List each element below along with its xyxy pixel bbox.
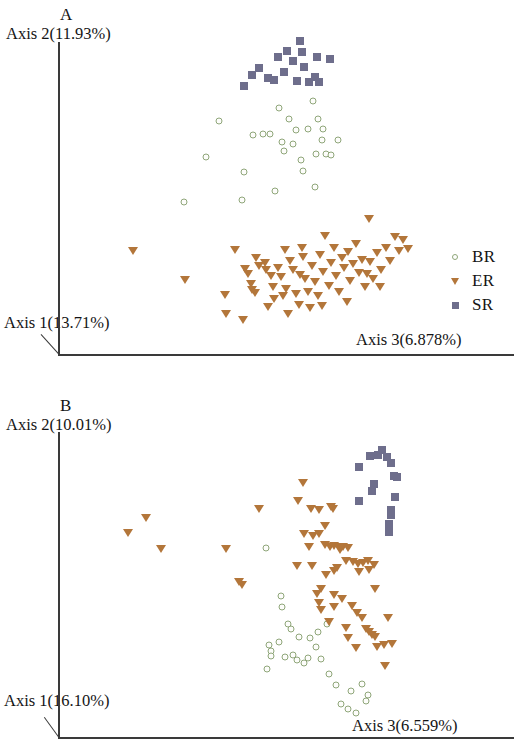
data-point-er — [381, 244, 391, 252]
data-point-er — [398, 236, 408, 244]
data-point-er — [403, 245, 413, 253]
data-point-sr — [315, 78, 323, 86]
data-point-br — [344, 705, 351, 712]
data-point-sr — [366, 452, 374, 460]
data-point-er — [345, 277, 355, 285]
data-point-br — [203, 154, 210, 161]
data-point-sr — [387, 459, 395, 467]
data-point-er — [305, 304, 315, 312]
data-point-er — [357, 614, 367, 622]
data-point-br — [306, 635, 313, 642]
data-point-er — [326, 259, 336, 267]
data-point-br — [363, 698, 370, 705]
panel-a-plot-area — [70, 30, 440, 350]
data-point-sr — [255, 64, 263, 72]
data-point-br — [278, 593, 285, 600]
panel-b-z-axis-line — [44, 717, 59, 737]
data-point-br — [290, 140, 297, 147]
data-point-er — [360, 283, 370, 291]
data-point-er — [343, 248, 353, 256]
er-marker-icon — [446, 278, 464, 285]
data-point-br — [263, 665, 270, 672]
data-point-br — [241, 169, 248, 176]
legend-label-br: BR — [472, 247, 495, 267]
data-point-er — [297, 244, 307, 252]
data-point-er — [351, 240, 361, 248]
data-point-er — [329, 244, 339, 252]
data-point-sr — [355, 463, 363, 471]
data-point-sr — [385, 528, 393, 536]
data-point-br — [271, 187, 278, 194]
data-point-sr — [240, 82, 248, 90]
data-point-er — [315, 251, 325, 259]
data-point-er — [331, 272, 341, 280]
data-point-er — [263, 303, 273, 311]
data-point-er — [298, 253, 308, 261]
data-point-er — [376, 266, 386, 274]
data-point-er — [221, 545, 231, 553]
panel-b-y-axis-line — [58, 432, 60, 738]
data-point-er — [351, 644, 361, 652]
data-point-er — [128, 247, 138, 255]
panel-b-plot-area — [66, 418, 446, 736]
data-point-er — [313, 292, 323, 300]
data-point-br — [276, 105, 283, 112]
data-point-br — [279, 138, 286, 145]
data-point-er — [280, 246, 290, 254]
data-point-sr — [298, 48, 306, 56]
data-point-er — [312, 590, 322, 598]
data-point-er — [324, 282, 334, 290]
data-point-er — [316, 606, 326, 614]
data-point-er — [266, 272, 276, 280]
data-point-br — [318, 655, 325, 662]
panel-a-y-axis-line — [58, 42, 60, 355]
data-point-er — [310, 278, 320, 286]
data-point-br — [352, 710, 359, 717]
data-point-br — [314, 629, 321, 636]
panel-a-letter: A — [60, 5, 72, 25]
data-point-br — [284, 621, 291, 628]
legend-row-sr: SR — [446, 293, 495, 317]
data-point-er — [250, 289, 260, 297]
data-point-br — [300, 167, 307, 174]
data-point-er — [368, 275, 378, 283]
data-point-br — [250, 132, 257, 139]
panel-a-x-axis-line — [58, 354, 514, 356]
data-point-er — [278, 292, 288, 300]
data-point-br — [314, 115, 321, 122]
data-point-er — [304, 543, 314, 551]
data-point-er — [354, 568, 364, 576]
data-point-er — [341, 624, 351, 632]
data-point-br — [312, 184, 319, 191]
data-point-er — [268, 283, 278, 291]
data-point-er — [285, 257, 295, 265]
data-point-er — [372, 643, 382, 651]
data-point-br — [267, 653, 274, 660]
data-point-er — [375, 283, 385, 291]
data-point-sr — [270, 76, 278, 84]
data-point-er — [141, 514, 151, 522]
data-point-er — [343, 634, 353, 642]
data-point-sr — [391, 493, 399, 501]
data-point-er — [276, 273, 286, 281]
data-point-er — [320, 232, 330, 240]
data-point-br — [297, 156, 304, 163]
data-point-er — [291, 290, 301, 298]
data-point-sr — [293, 77, 301, 85]
data-point-br — [296, 634, 303, 641]
data-point-sr — [274, 53, 282, 61]
data-point-sr — [393, 473, 401, 481]
data-point-br — [320, 126, 327, 133]
data-point-br — [304, 125, 311, 132]
data-point-er — [342, 298, 352, 306]
data-point-er — [335, 546, 345, 554]
br-marker-icon — [446, 254, 464, 260]
data-point-er — [326, 503, 336, 511]
data-point-br — [332, 682, 339, 689]
data-point-sr — [289, 57, 297, 65]
data-point-er — [251, 254, 261, 262]
legend-label-sr: SR — [472, 295, 493, 315]
data-point-er — [254, 505, 264, 513]
data-point-er — [307, 562, 317, 570]
data-point-sr — [368, 487, 376, 495]
